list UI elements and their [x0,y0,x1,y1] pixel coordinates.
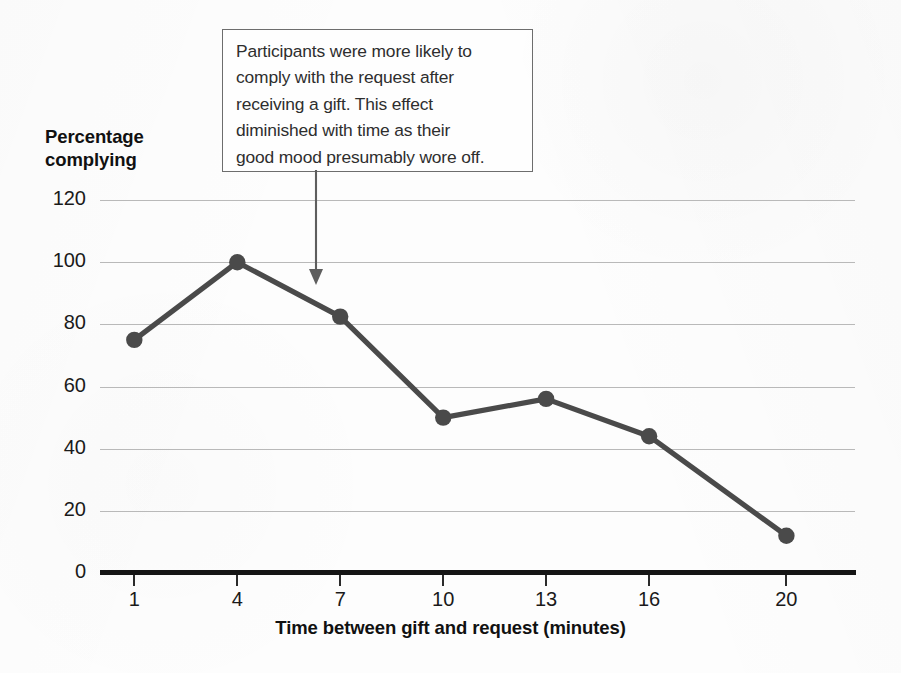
x-axis-tick-mark [133,575,135,586]
x-axis-tick-mark [785,575,787,586]
x-axis-tick-label: 10 [423,588,463,611]
plot-area [100,195,855,575]
y-axis-tick-label: 100 [22,249,86,272]
annotation-arrow-icon [280,170,352,290]
annotation-line-3: receiving a gift. This effect [236,91,524,117]
annotation-callout-box: Participants were more likely to comply … [222,29,533,172]
x-axis-tick-label: 20 [766,588,806,611]
y-axis-tick-label: 20 [22,498,86,521]
x-axis-tick-label: 16 [629,588,669,611]
y-axis-title-line-1: Percentage [45,126,215,149]
annotation-callout-text: Participants were more likely to comply … [236,38,524,170]
y-axis-tick-label: 120 [22,187,86,210]
annotation-line-2: comply with the request after [236,64,524,90]
gridline [100,449,855,450]
x-axis-tick-label: 1 [114,588,154,611]
x-axis-tick-mark [339,575,341,586]
gridline [100,200,855,201]
x-axis-tick-label: 4 [217,588,257,611]
gridline [100,387,855,388]
chart-page: Percentage complying 020406080100120 147… [0,0,901,673]
x-axis-tick-mark [236,575,238,586]
annotation-line-1: Participants were more likely to [236,38,524,64]
y-axis-tick-label: 60 [22,374,86,397]
gridline [100,511,855,512]
annotation-line-4: diminished with time as their [236,117,524,143]
x-axis-tick-mark [545,575,547,586]
x-axis-tick-mark [442,575,444,586]
x-axis-line [100,570,856,575]
y-axis-tick-label: 80 [22,311,86,334]
x-axis-tick-mark [648,575,650,586]
gridline [100,324,855,325]
x-axis-tick-label: 13 [526,588,566,611]
y-axis-tick-label: 0 [22,560,86,583]
x-axis-tick-label: 7 [320,588,360,611]
y-axis-title: Percentage complying [45,126,215,172]
x-axis-title: Time between gift and request (minutes) [0,617,901,639]
y-axis-tick-label: 40 [22,436,86,459]
annotation-line-5: good mood presumably wore off. [236,144,524,170]
gridline [100,262,855,263]
y-axis-title-line-2: complying [45,149,215,172]
